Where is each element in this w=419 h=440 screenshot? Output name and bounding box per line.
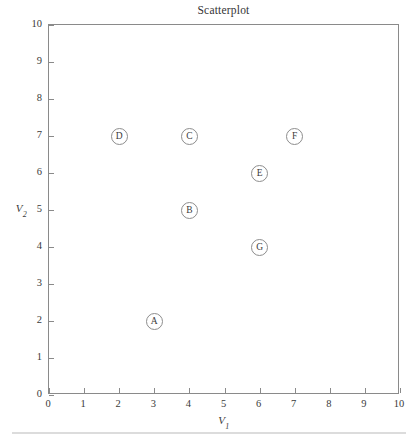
y-axis-tick (49, 321, 54, 322)
x-axis-tick-label: 2 (107, 399, 129, 410)
x-axis-title-subscript: 1 (225, 422, 229, 431)
y-axis-tick (49, 99, 54, 100)
x-axis-tick (154, 388, 155, 393)
y-axis-tick-label: 9 (16, 56, 42, 67)
data-point-e: E (251, 165, 268, 182)
y-axis-tick-label: 4 (16, 241, 42, 252)
data-point-f: F (286, 128, 303, 145)
data-point-a: A (146, 313, 163, 330)
y-axis-tick-label: 3 (16, 278, 42, 289)
y-axis-title: V2 (8, 202, 34, 217)
y-axis-tick (49, 136, 54, 137)
y-axis-tick-label: 1 (16, 352, 42, 363)
x-axis-title: V1 (48, 414, 399, 429)
x-axis-title-base: V (218, 414, 225, 426)
y-axis-tick (49, 247, 54, 248)
y-axis-tick-label: 2 (16, 315, 42, 326)
x-axis-tick (365, 388, 366, 393)
bottom-divider (12, 432, 406, 434)
x-axis-tick-label: 3 (142, 399, 164, 410)
y-axis-tick (49, 62, 54, 63)
x-axis-tick (295, 388, 296, 393)
x-axis-tick-label: 4 (177, 399, 199, 410)
x-axis-tick (225, 388, 226, 393)
data-point-c: C (181, 128, 198, 145)
y-axis-tick-label: 7 (16, 130, 42, 141)
data-point-b: B (181, 202, 198, 219)
x-axis-tick (49, 388, 50, 393)
x-axis-tick-label: 0 (37, 399, 59, 410)
y-axis-tick (49, 358, 54, 359)
y-axis-tick-label: 0 (16, 389, 42, 400)
y-axis-tick-label: 10 (16, 19, 42, 30)
plot-area: ABCDEFG (49, 25, 398, 393)
y-axis-title-base: V (16, 202, 23, 214)
x-axis-tick-label: 7 (283, 399, 305, 410)
plot-panel: ABCDEFG (48, 24, 399, 394)
x-axis-tick (260, 388, 261, 393)
scatterplot-figure: Scatterplot ABCDEFG 012345678910 0123456… (0, 0, 419, 440)
x-axis-tick (189, 388, 190, 393)
x-axis-tick-label: 8 (318, 399, 340, 410)
x-axis-tick (330, 388, 331, 393)
x-axis-tick (400, 388, 401, 393)
y-axis-tick (49, 210, 54, 211)
y-axis-tick-label: 8 (16, 93, 42, 104)
y-axis-tick (49, 395, 54, 396)
x-axis-tick (119, 388, 120, 393)
y-axis-tick (49, 284, 54, 285)
x-axis-tick-labels: 012345678910 (48, 399, 399, 415)
chart-title: Scatterplot (48, 4, 399, 16)
data-point-g: G (251, 239, 268, 256)
x-axis-tick-label: 1 (72, 399, 94, 410)
y-axis-title-subscript: 2 (23, 210, 27, 219)
y-axis-tick (49, 173, 54, 174)
x-axis-tick-label: 5 (213, 399, 235, 410)
data-point-d: D (111, 128, 128, 145)
x-axis-tick-label: 6 (248, 399, 270, 410)
y-axis-tick (49, 25, 54, 26)
y-axis-tick-label: 6 (16, 167, 42, 178)
x-axis-tick (84, 388, 85, 393)
x-axis-tick-label: 10 (388, 399, 410, 410)
x-axis-tick-label: 9 (353, 399, 375, 410)
